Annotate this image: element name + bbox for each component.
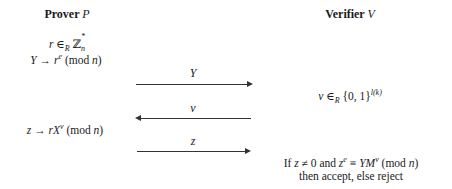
arrowhead-right-icon <box>247 81 253 87</box>
message-label-v: v <box>190 101 195 116</box>
prover-symbol: P <box>82 7 89 21</box>
arrow-left-v <box>137 118 251 119</box>
verifier-symbol: V <box>367 7 374 21</box>
prover-random-choice: r ∈R ℤ*n <box>49 37 85 53</box>
arrow-right-z <box>137 151 249 152</box>
verifier-decision: then accept, else reject <box>299 170 403 182</box>
message-label-y: Y <box>190 66 197 81</box>
prover-title: Prover <box>44 7 79 21</box>
prover-commitment: Y → re (mod n) <box>30 52 101 66</box>
prover-header: Prover P <box>44 7 89 22</box>
verifier-header: Verifier V <box>325 7 375 22</box>
verifier-challenge: v ∈R {0, 1}l(k) <box>318 88 382 105</box>
message-label-z: z <box>191 134 196 149</box>
arrow-right-y <box>136 84 251 85</box>
verifier-title: Verifier <box>325 7 364 21</box>
arrowhead-left-icon <box>135 115 141 121</box>
prover-response: z → rXv (mod n) <box>27 122 103 136</box>
arrowhead-right-icon <box>245 148 251 154</box>
verifier-check-condition: If z ≠ 0 and ze ≡ YMv (mod n) <box>284 155 419 169</box>
